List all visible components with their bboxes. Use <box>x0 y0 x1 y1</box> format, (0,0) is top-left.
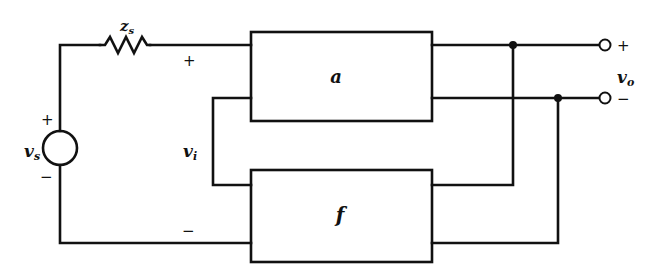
block-a-label: a <box>330 66 342 87</box>
output-plus-sign: + <box>617 37 630 55</box>
input-loop-wire <box>213 98 251 185</box>
junction-dot-bottom <box>554 94 562 102</box>
output-terminal-minus <box>600 93 611 104</box>
source-impedance-resistor <box>100 37 150 53</box>
block-f-label: f <box>334 203 348 227</box>
source-voltage-label: vs <box>24 141 40 163</box>
impedance-label: zs <box>119 17 135 36</box>
source-wiring <box>60 45 251 243</box>
junction-dot-top <box>509 41 517 49</box>
output-wiring <box>432 45 600 243</box>
circuit-diagram: zs a f vs + − vi + − vo + − <box>0 0 652 272</box>
source-plus-sign: + <box>41 111 54 129</box>
input-plus-sign: + <box>183 52 196 70</box>
voltage-source <box>43 131 77 165</box>
input-minus-sign: − <box>182 222 195 240</box>
output-voltage-label: vo <box>617 67 634 89</box>
source-minus-sign: − <box>40 168 53 186</box>
output-minus-sign: − <box>617 90 630 108</box>
output-terminal-plus <box>600 40 611 51</box>
input-voltage-label: vi <box>183 141 197 163</box>
